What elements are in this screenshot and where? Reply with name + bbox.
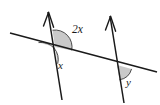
angle-label-x: x — [57, 59, 63, 71]
geometry-canvas: 2x x y — [0, 0, 160, 105]
angle-label-y: y — [125, 76, 131, 88]
angle-label-2x: 2x — [72, 23, 84, 35]
parallel-line-left — [48, 12, 62, 100]
geometry-figure: 2x x y — [0, 0, 160, 105]
transversal-line — [10, 33, 157, 72]
